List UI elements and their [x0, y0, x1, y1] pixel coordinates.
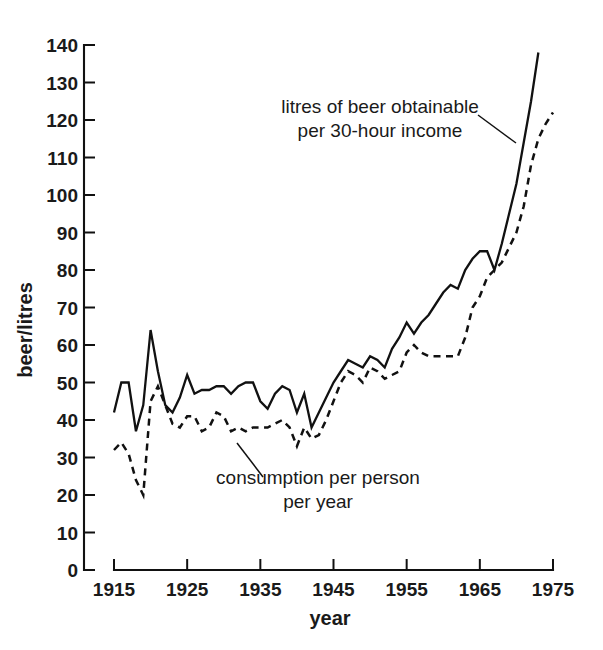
- y-tick-label-110: 110: [47, 148, 78, 169]
- x-tick-label-1965: 1965: [459, 579, 502, 600]
- y-tick-label-90: 90: [57, 223, 78, 244]
- x-axis-title: year: [309, 607, 350, 629]
- solid-series-annotation-line-1: litres of beer obtainable: [281, 96, 479, 117]
- solid-series-annotation-leader-line: [478, 115, 516, 143]
- y-tick-label-100: 100: [46, 185, 78, 206]
- dashed-series-annotation-line-1: consumption per person: [216, 467, 420, 488]
- x-tick-label-1935: 1935: [239, 579, 282, 600]
- y-tick-label-40: 40: [57, 410, 78, 431]
- chart-canvas: 0102030405060708090100110120130140 19151…: [0, 0, 603, 650]
- x-tick-label-1915: 1915: [93, 579, 136, 600]
- y-tick-label-0: 0: [67, 560, 78, 581]
- y-tick-label-140: 140: [46, 35, 78, 56]
- x-tick-label-1945: 1945: [312, 579, 355, 600]
- dashed-series-annotation-line-2: per year: [283, 491, 353, 512]
- series-line-consumption: [114, 113, 553, 496]
- y-tick-label-50: 50: [57, 373, 78, 394]
- solid-series-annotation: litres of beer obtainableper 30-hour inc…: [281, 96, 479, 141]
- beer-consumption-chart: 0102030405060708090100110120130140 19151…: [0, 0, 603, 650]
- y-axis-tick-labels: 0102030405060708090100110120130140: [46, 35, 78, 581]
- x-tick-label-1975: 1975: [532, 579, 575, 600]
- y-tick-label-130: 130: [46, 73, 78, 94]
- y-axis-title: beer/litres: [14, 282, 36, 378]
- solid-series-annotation-line-2: per 30-hour income: [298, 120, 463, 141]
- y-tick-label-10: 10: [57, 523, 78, 544]
- chart-annotations: litres of beer obtainableper 30-hour inc…: [216, 96, 516, 512]
- x-tick-label-1925: 1925: [166, 579, 209, 600]
- y-tick-label-80: 80: [57, 260, 78, 281]
- y-tick-label-120: 120: [46, 110, 78, 131]
- y-axis-ticks: [84, 45, 95, 570]
- x-axis-tick-labels: 1915192519351945195519651975: [93, 579, 575, 600]
- y-tick-label-30: 30: [57, 448, 78, 469]
- x-axis-ticks: [114, 559, 553, 570]
- dashed-series-annotation: consumption per personper year: [216, 467, 420, 512]
- x-tick-label-1955: 1955: [386, 579, 429, 600]
- y-tick-label-20: 20: [57, 485, 78, 506]
- y-tick-label-70: 70: [57, 298, 78, 319]
- y-tick-label-60: 60: [57, 335, 78, 356]
